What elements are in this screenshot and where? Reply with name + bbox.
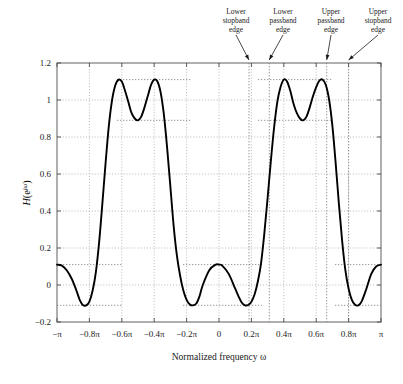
x-tick-label: 0.4π (276, 329, 292, 339)
x-tick-label: −π (52, 329, 62, 339)
annotation-lower-stopband-edge-line3: edge (229, 25, 244, 34)
chart-background (0, 0, 403, 384)
x-tick-label: 0.8π (341, 329, 357, 339)
x-tick-label: −0.8π (79, 329, 100, 339)
annotation-lower-stopband-edge-line1: Lower (226, 7, 246, 16)
y-tick-label: 1.2 (40, 58, 51, 68)
y-tick-label: 0.8 (40, 132, 52, 142)
y-axis-title-close: ) (21, 180, 33, 183)
x-axis-title: Normalized frequency ω (172, 351, 267, 362)
annotation-upper-passband-edge-line1: Upper (322, 7, 341, 16)
x-tick-label: 0.2π (244, 329, 260, 339)
x-tick-label: −0.2π (176, 329, 197, 339)
y-axis-title: H(ejω) (21, 180, 33, 206)
frequency-response-chart: −π−0.8π−0.6π−0.4π−0.2π00.2π0.4π0.6π0.8ππ… (0, 0, 403, 384)
figure-container: −π−0.8π−0.6π−0.4π−0.2π00.2π0.4π0.6π0.8ππ… (0, 0, 403, 384)
annotation-lower-stopband-edge-line2: stopband (223, 16, 250, 25)
annotation-lower-passband-edge-line3: edge (276, 25, 291, 34)
x-tick-label: −0.4π (144, 329, 165, 339)
annotation-upper-passband-edge-line3: edge (324, 25, 339, 34)
y-tick-label: 0.6 (40, 169, 52, 179)
y-tick-label: 0.2 (40, 243, 51, 253)
x-tick-label: −0.6π (111, 329, 132, 339)
annotation-upper-stopband-edge-line2: stopband (365, 16, 392, 25)
x-tick-label: 0.6π (308, 329, 324, 339)
annotation-lower-passband-edge-line1: Lower (273, 7, 293, 16)
annotation-upper-stopband-edge-line3: edge (371, 25, 386, 34)
y-tick-label: 0 (47, 280, 52, 290)
y-axis-title-text: H(ejω) (21, 180, 33, 206)
y-tick-label: −0.2 (35, 317, 51, 327)
y-tick-label: 1 (47, 95, 52, 105)
annotation-upper-stopband-edge-line1: Upper (369, 7, 388, 16)
annotation-lower-passband-edge-line2: passband (269, 16, 296, 25)
annotation-upper-passband-edge-line2: passband (317, 16, 344, 25)
x-tick-label: 0 (217, 329, 222, 339)
y-tick-label: 0.4 (40, 206, 52, 216)
x-tick-label: π (379, 329, 384, 339)
